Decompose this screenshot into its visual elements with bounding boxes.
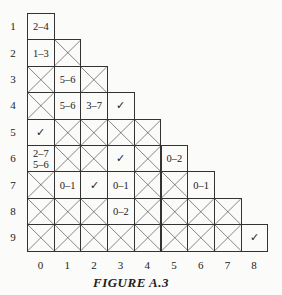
crossed-cell — [54, 145, 82, 172]
table-cell: 0–1 — [54, 171, 82, 198]
crossed-cell — [134, 224, 162, 251]
crossed-cell — [161, 198, 189, 225]
table-cell: 5–6 — [54, 92, 82, 119]
table-cell: ✓ — [107, 92, 135, 119]
row-label: 1 — [6, 20, 20, 32]
cross-icon — [135, 199, 161, 224]
cross-icon — [55, 146, 81, 171]
row-label: 6 — [6, 152, 20, 164]
cross-icon — [215, 225, 241, 250]
cell-text: 0–1 — [60, 180, 76, 191]
table-cell: ✓ — [27, 119, 55, 146]
crossed-cell — [54, 119, 82, 146]
row-label: 8 — [6, 205, 20, 217]
crossed-cell — [134, 119, 162, 146]
cross-icon — [55, 40, 81, 65]
crossed-cell — [80, 198, 108, 225]
crossed-cell — [134, 171, 162, 198]
cell-text: 0–1 — [113, 180, 129, 191]
cross-icon — [28, 93, 54, 118]
crossed-cell — [80, 119, 108, 146]
crossed-cell — [27, 92, 55, 119]
table-cell: 3–7 — [80, 92, 108, 119]
check-icon: ✓ — [116, 100, 125, 111]
cross-icon — [55, 225, 81, 250]
crossed-cell — [161, 224, 189, 251]
cell-text: 5–6 — [60, 100, 76, 111]
column-label: 8 — [241, 259, 268, 271]
column-label: 1 — [54, 259, 81, 271]
column-label: 4 — [134, 259, 161, 271]
table-cell: 2–4 — [27, 13, 55, 40]
crossed-cell — [80, 145, 108, 172]
cross-icon — [28, 225, 54, 250]
cross-icon — [162, 199, 188, 224]
cross-icon — [162, 172, 188, 197]
check-icon: ✓ — [116, 153, 125, 164]
table-cell: 5–6 — [54, 66, 82, 93]
cross-icon — [28, 67, 54, 92]
cross-icon — [188, 199, 214, 224]
cross-icon — [28, 199, 54, 224]
column-label: 7 — [214, 259, 241, 271]
crossed-cell — [27, 66, 55, 93]
row-label: 9 — [6, 231, 20, 243]
cross-icon — [55, 120, 81, 145]
crossed-cell — [80, 224, 108, 251]
crossed-cell — [107, 119, 135, 146]
check-icon: ✓ — [250, 232, 259, 243]
crossed-cell — [134, 145, 162, 172]
row-label: 3 — [6, 73, 20, 85]
table-cell: 0–2 — [161, 145, 189, 172]
cell-text: 5–6 — [60, 74, 76, 85]
crossed-cell — [27, 224, 55, 251]
cross-icon — [135, 146, 161, 171]
column-label: 3 — [107, 259, 134, 271]
table-cell: ✓ — [80, 171, 108, 198]
cross-icon — [162, 225, 188, 250]
table-cell: ✓ — [241, 224, 269, 251]
figure-caption: FIGURE A.3 — [93, 275, 169, 291]
cell-text: 2–7 — [33, 148, 49, 159]
crossed-cell — [214, 224, 242, 251]
cross-icon — [28, 172, 54, 197]
cross-icon — [135, 225, 161, 250]
check-icon: ✓ — [36, 127, 45, 138]
row-label: 4 — [6, 99, 20, 111]
cell-text: 0–1 — [193, 180, 209, 191]
table-cell: 0–2 — [107, 198, 135, 225]
column-label: 2 — [80, 259, 107, 271]
crossed-cell — [27, 171, 55, 198]
crossed-cell — [214, 198, 242, 225]
cell-text: 1–3 — [33, 48, 49, 59]
cell-text: 2–4 — [33, 21, 49, 32]
check-icon: ✓ — [90, 180, 99, 191]
crossed-cell — [54, 39, 82, 66]
cell-text: 3–7 — [86, 100, 102, 111]
crossed-cell — [187, 198, 215, 225]
cross-icon — [55, 199, 81, 224]
crossed-cell — [27, 198, 55, 225]
cross-icon — [108, 120, 134, 145]
column-label: 0 — [27, 259, 54, 271]
cross-icon — [81, 67, 107, 92]
crossed-cell — [54, 224, 82, 251]
cell-text: 5–6 — [33, 159, 49, 170]
cross-icon — [135, 172, 161, 197]
row-label: 5 — [6, 126, 20, 138]
cross-icon — [135, 120, 161, 145]
table-cell: 2–75–6 — [27, 145, 55, 172]
table-cell: ✓ — [107, 145, 135, 172]
cross-icon — [81, 120, 107, 145]
cross-icon — [108, 225, 134, 250]
cell-text: 0–2 — [113, 206, 129, 217]
table-cell: 1–3 — [27, 39, 55, 66]
cross-icon — [188, 225, 214, 250]
crossed-cell — [187, 224, 215, 251]
crossed-cell — [134, 198, 162, 225]
row-label: 7 — [6, 179, 20, 191]
row-label: 2 — [6, 47, 20, 59]
cell-text: 0–2 — [166, 153, 182, 164]
column-label: 6 — [187, 259, 214, 271]
table-cell: 0–1 — [187, 171, 215, 198]
